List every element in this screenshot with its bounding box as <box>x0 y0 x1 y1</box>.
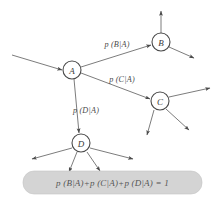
edge-label-p-c-given-a: p (C|A) <box>108 75 135 84</box>
d-out-down-left-arrow <box>69 152 77 172</box>
node-a-label: A <box>68 66 75 76</box>
node-b-label: B <box>158 38 164 48</box>
node-b[interactable]: B <box>152 33 170 51</box>
d-out-down-right-arrow <box>87 152 100 171</box>
c-out-right-arrow <box>169 88 210 97</box>
edge-label-p-d-given-a: p (D|A) <box>72 106 99 115</box>
equation-text: p (B|A)+p (C|A)+p (D|A) = 1 <box>55 178 169 188</box>
d-out-left-arrow <box>32 148 72 159</box>
probability-diagram: A B C D p (B|A) p (C|A) p (D|A) p (B|A)+… <box>0 0 223 199</box>
incoming-edge-to-a <box>12 55 62 70</box>
b-out-lower-right-arrow <box>169 47 194 58</box>
edge-label-p-b-given-a: p (B|A) <box>103 40 129 49</box>
node-d[interactable]: D <box>72 134 90 152</box>
equation-box: p (B|A)+p (C|A)+p (D|A) = 1 <box>23 171 202 194</box>
d-out-right-arrow <box>90 148 133 159</box>
node-c-label: C <box>157 97 164 107</box>
c-out-lower-right-arrow <box>166 109 189 130</box>
node-c[interactable]: C <box>151 92 169 110</box>
diagram-canvas: A B C D p (B|A) p (C|A) p (D|A) p (B|A)+… <box>0 0 223 199</box>
node-d-label: D <box>77 139 85 149</box>
c-out-down-arrow <box>147 110 154 135</box>
node-a[interactable]: A <box>63 61 81 79</box>
